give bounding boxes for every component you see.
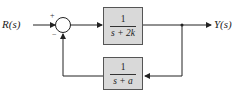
minus-sign: − <box>52 30 57 39</box>
feedback-block: 1 s + a <box>103 57 143 90</box>
forward-block: 1 s + 2k <box>103 7 143 45</box>
fraction-bar <box>110 26 136 27</box>
plus-sign: + <box>50 11 55 20</box>
summing-junction <box>56 18 71 33</box>
input-label: R(s) <box>2 18 20 30</box>
forward-denominator: s + 2k <box>111 28 135 38</box>
fraction-bar <box>110 74 136 75</box>
feedback-denominator: s + a <box>113 76 133 86</box>
output-label: Y(s) <box>214 18 232 30</box>
forward-numerator: 1 <box>121 14 126 24</box>
feedback-numerator: 1 <box>121 62 126 72</box>
